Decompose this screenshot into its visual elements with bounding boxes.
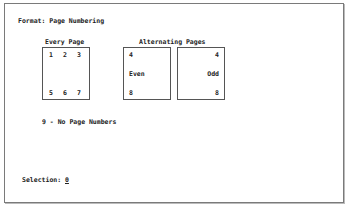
option-8-odd[interactable]: 8: [215, 89, 219, 97]
option-4-odd[interactable]: 4: [215, 51, 219, 59]
option-4-even[interactable]: 4: [129, 51, 133, 59]
option-5[interactable]: 5: [49, 89, 53, 97]
option-8-even[interactable]: 8: [129, 89, 133, 97]
terminal-window: [4, 3, 344, 203]
option-1[interactable]: 1: [49, 51, 53, 59]
alternating-heading: Alternating Pages: [139, 38, 206, 46]
every-page-heading: Every Page: [45, 38, 84, 46]
odd-label: Odd: [207, 70, 219, 78]
option-3[interactable]: 3: [77, 51, 81, 59]
odd-page-preview: 4 Odd 8: [177, 47, 225, 100]
every-page-preview: 1 2 3 5 6 7: [42, 47, 90, 100]
page-title: Format: Page Numbering: [18, 17, 104, 25]
option-2[interactable]: 2: [63, 51, 67, 59]
option-7[interactable]: 7: [77, 89, 81, 97]
even-page-preview: 4 Even 8: [123, 47, 171, 100]
even-label: Even: [129, 70, 145, 78]
option-6[interactable]: 6: [63, 89, 67, 97]
selection-label: Selection:: [22, 176, 61, 184]
selection-input[interactable]: 0: [65, 176, 69, 184]
option-9-no-numbers[interactable]: 9 - No Page Numbers: [42, 118, 116, 126]
